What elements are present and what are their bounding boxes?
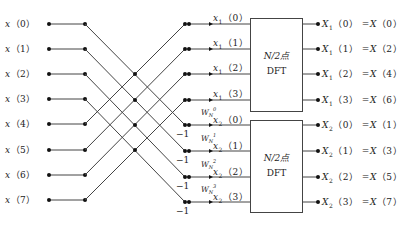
output-label-bottom-3: X2（3） =X（7） [322, 197, 402, 211]
output-node-top-3 [316, 98, 320, 102]
input-node-7 [47, 198, 51, 202]
merge-node-0 [183, 22, 187, 26]
dft-box-bottom-line2: DFT [251, 168, 302, 178]
output-label-bottom-2: X2（2） =X（5） [322, 172, 402, 186]
x1-label-1: x1（1） [213, 38, 248, 52]
output-node-bottom-2 [316, 175, 320, 179]
dft-box-bottom-line1: N/2点 [251, 151, 302, 164]
output-label-top-3: X1（3） =X（6） [322, 95, 402, 109]
twiddle-2: WN2 [201, 158, 216, 170]
merge-node-b-1 [187, 47, 191, 51]
merge-node-b-7 [187, 200, 191, 204]
merge-node-b-3 [187, 98, 191, 102]
x2-label-3: x2（3） [213, 192, 248, 206]
input-node-5 [47, 148, 51, 152]
merge-node-4 [183, 123, 187, 127]
x2-label-1: x2（1） [213, 141, 248, 155]
input-node-3 [47, 97, 51, 101]
x1-label-2: x1（2） [213, 63, 248, 77]
input-node-1 [47, 47, 51, 51]
crossing-node-1 [133, 98, 137, 102]
output-label-top-1: X1（1） =X（2） [322, 44, 402, 58]
x1-label-0: x1（0） [213, 13, 248, 27]
crossing-node-3 [133, 148, 137, 152]
merge-node-b-2 [187, 72, 191, 76]
merge-node-b-6 [187, 175, 191, 179]
merge-node-1 [183, 47, 187, 51]
fft-butterfly-diagram: x（0）x（1）x（2）x（3）x（4）x（5）x（6）x（7）x1（0）x2（… [0, 0, 406, 227]
output-node-top-1 [316, 47, 320, 51]
merge-node-b-0 [187, 22, 191, 26]
dft-box-top: N/2点 DFT [250, 18, 303, 112]
input-label-3: x（3） [5, 94, 36, 104]
merge-node-3 [183, 98, 187, 102]
output-label-bottom-0: X2（0） =X（1） [322, 120, 402, 134]
merge-node-7 [183, 200, 187, 204]
input-label-5: x（5） [5, 145, 36, 155]
dft-box-top-line1: N/2点 [251, 49, 302, 62]
dft-box-top-line2: DFT [251, 66, 302, 76]
input-label-1: x（1） [5, 44, 36, 54]
twiddle-0: WN0 [201, 106, 216, 118]
crossing-node-0 [133, 72, 137, 76]
input-node-6 [47, 173, 51, 177]
input-label-2: x（2） [5, 69, 36, 79]
minus-one-2: −1 [176, 181, 189, 191]
output-node-bottom-3 [316, 200, 320, 204]
merge-node-5 [183, 149, 187, 153]
crossing-node-2 [133, 123, 137, 127]
input-label-4: x（4） [5, 119, 36, 129]
x2-label-2: x2（2） [213, 167, 248, 181]
x1-label-3: x1（3） [213, 89, 248, 103]
minus-one-0: −1 [176, 129, 189, 139]
input-label-0: x（0） [5, 19, 36, 29]
twiddle-3: WN3 [201, 183, 216, 195]
merge-node-b-4 [187, 123, 191, 127]
output-label-bottom-1: X2（1） =X（3） [322, 146, 402, 160]
merge-node-b-5 [187, 149, 191, 153]
output-node-top-2 [316, 72, 320, 76]
minus-one-3: −1 [176, 206, 189, 216]
input-node-4 [47, 122, 51, 126]
input-label-6: x（6） [5, 170, 36, 180]
output-node-top-0 [316, 22, 320, 26]
x2-label-0: x2（0） [213, 115, 248, 129]
output-label-top-0: X1（0） =X（0） [322, 19, 402, 33]
minus-one-1: −1 [176, 155, 189, 165]
input-node-2 [47, 72, 51, 76]
twiddle-1: WN1 [201, 132, 216, 144]
output-node-bottom-1 [316, 149, 320, 153]
merge-node-6 [183, 175, 187, 179]
output-label-top-2: X1（2） =X（4） [322, 69, 402, 83]
input-node-0 [47, 22, 51, 26]
input-label-7: x（7） [5, 195, 36, 205]
dft-box-bottom: N/2点 DFT [250, 120, 303, 213]
merge-node-2 [183, 72, 187, 76]
output-node-bottom-0 [316, 123, 320, 127]
